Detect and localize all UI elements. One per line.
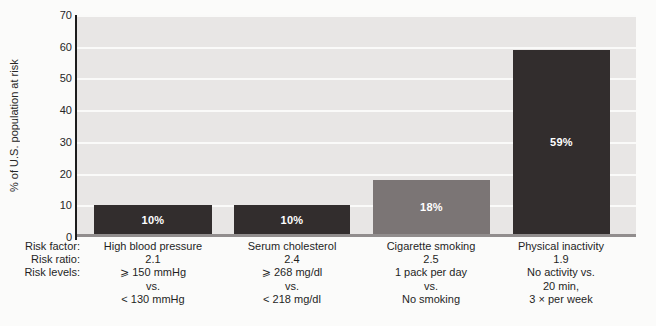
risk-level-line: < 130 mmHg (78, 293, 228, 306)
y-tick-label: 30 (40, 135, 72, 149)
footer-row-label: Risk ratio: (0, 253, 80, 266)
risk-level-line: 3 × per week (486, 293, 636, 306)
footer-column-2: Serum cholesterol2.4⩾ 268 mg/dlvs.< 218 … (217, 240, 367, 306)
bar-high-blood-pressure: 10% (94, 205, 212, 234)
y-tick-label: 40 (40, 103, 72, 117)
bar-serum-cholesterol: 10% (234, 205, 350, 234)
y-tick-label: 70 (40, 8, 72, 22)
plot-area: 10%10%18%59% (77, 15, 636, 237)
footer-column-3: Cigarette smoking2.51 pack per dayvs.No … (356, 240, 506, 306)
bar-value-label: 18% (420, 201, 443, 213)
bar-value-label: 10% (281, 214, 304, 226)
risk-ratio-value: 2.1 (78, 253, 228, 266)
footer-row-label: Risk levels: (0, 266, 80, 279)
risk-ratio-value: 2.5 (356, 253, 506, 266)
risk-ratio-value: 2.4 (217, 253, 367, 266)
risk-ratio-value: 1.9 (486, 253, 636, 266)
risk-factor-value: Physical inactivity (486, 240, 636, 253)
risk-level-line: No activity vs. (486, 266, 636, 279)
footer-column-4: Physical inactivity1.9No activity vs.20 … (486, 240, 636, 306)
gridline (77, 47, 636, 49)
risk-level-line: vs. (356, 280, 506, 293)
risk-level-line: vs. (217, 280, 367, 293)
footer-row-label: Risk factor: (0, 240, 80, 253)
risk-factor-value: High blood pressure (78, 240, 228, 253)
y-tick-label: 60 (40, 40, 72, 54)
risk-factor-value: Cigarette smoking (356, 240, 506, 253)
y-tick-label: 10 (40, 198, 72, 212)
risk-level-line: No smoking (356, 293, 506, 306)
y-tick-label: 50 (40, 71, 72, 85)
x-axis-baseline (77, 234, 636, 237)
risk-factor-bar-chart: % of U.S. population at risk 70605040302… (0, 0, 656, 326)
bar-value-label: 10% (142, 214, 165, 226)
y-tick-label: 20 (40, 167, 72, 181)
risk-level-line: < 218 mg/dl (217, 293, 367, 306)
footer-row-labels: Risk factor:Risk ratio:Risk levels: (0, 240, 80, 280)
y-axis-title: % of U.S. population at risk (8, 15, 24, 237)
risk-factor-value: Serum cholesterol (217, 240, 367, 253)
footer-column-1: High blood pressure2.1⩾ 150 mmHgvs.< 130… (78, 240, 228, 306)
risk-level-line: 1 pack per day (356, 266, 506, 279)
bar-value-label: 59% (550, 136, 573, 148)
risk-level-line: vs. (78, 280, 228, 293)
risk-level-line: 20 min, (486, 280, 636, 293)
bar-cigarette-smoking: 18% (373, 180, 490, 234)
gridline (77, 15, 636, 17)
risk-level-line: ⩾ 268 mg/dl (217, 266, 367, 279)
risk-level-line: ⩾ 150 mmHg (78, 266, 228, 279)
bar-physical-inactivity: 59% (513, 50, 610, 234)
